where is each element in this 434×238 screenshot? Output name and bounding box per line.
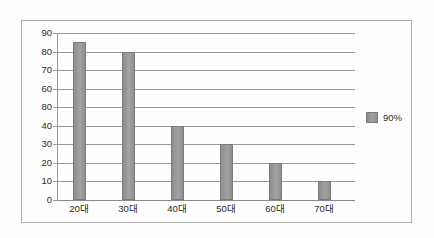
legend-label-90pct: 90%: [383, 112, 402, 123]
gridline-30: [57, 144, 355, 145]
xtick-label-2: 40대: [153, 203, 201, 214]
bar-chart: 90 80 70 60 80 40 30 20 10 0 20대 30대 40대…: [0, 0, 434, 238]
xtick-label-4: 60대: [251, 203, 299, 214]
xtick-label-0: 20대: [55, 203, 103, 214]
ytick-label-60: 60: [22, 84, 52, 94]
axis-y-line: [57, 33, 58, 201]
ytick-mark-90: [53, 33, 57, 34]
ytick-text: 40: [26, 121, 52, 131]
gridline-50: [57, 107, 355, 108]
ytick-mark-10: [53, 181, 57, 182]
gridline-90: [57, 33, 355, 34]
xtick-label-5: 70대: [300, 203, 348, 214]
bar-30dae: [122, 52, 135, 200]
xtick-label-3: 50대: [202, 203, 250, 214]
ytick-mark-80: [53, 52, 57, 53]
gridline-80: [57, 52, 355, 53]
ytick-text: 30: [26, 139, 52, 149]
ytick-mark-0: [53, 200, 57, 201]
gridline-60: [57, 89, 355, 90]
ytick-label-20: 20: [22, 158, 52, 168]
ytick-label-80: 80: [22, 47, 52, 57]
ytick-label-30: 30: [22, 139, 52, 149]
legend-swatch-90pct: [366, 112, 378, 123]
ytick-text: 60: [26, 84, 52, 94]
bar-20dae: [73, 42, 86, 200]
xtick-label-1: 30대: [104, 203, 152, 214]
bar-60dae: [269, 163, 282, 200]
ytick-text: 80: [26, 102, 52, 112]
ytick-mark-30: [53, 144, 57, 145]
gridline-40: [57, 126, 355, 127]
ytick-text: 70: [26, 65, 52, 75]
ytick-text: 90: [26, 28, 52, 38]
ytick-mark-20: [53, 163, 57, 164]
ytick-label-50: 80: [22, 102, 52, 112]
ytick-label-90: 90: [22, 28, 52, 38]
ytick-mark-70: [53, 70, 57, 71]
bar-70dae: [318, 181, 331, 200]
ytick-text: 20: [26, 158, 52, 168]
ytick-label-0: 0: [22, 195, 52, 205]
ytick-label-10: 10: [22, 176, 52, 186]
ytick-mark-40: [53, 126, 57, 127]
ytick-label-40: 40: [22, 121, 52, 131]
ytick-mark-50: [53, 107, 57, 108]
gridline-70: [57, 70, 355, 71]
gridline-10: [57, 181, 355, 182]
gridline-20: [57, 163, 355, 164]
ytick-text: 10: [26, 176, 52, 186]
ytick-mark-60: [53, 89, 57, 90]
bar-40dae: [171, 126, 184, 200]
ytick-text: 0: [26, 195, 52, 205]
bar-50dae: [220, 144, 233, 200]
ytick-label-70: 70: [22, 65, 52, 75]
ytick-text: 80: [26, 47, 52, 57]
axis-x-baseline: [57, 200, 355, 201]
